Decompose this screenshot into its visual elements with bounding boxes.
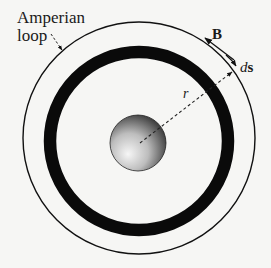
ds-label-s: s (248, 59, 254, 75)
ds-label: ds (240, 60, 253, 75)
ds-label-d: d (240, 59, 248, 75)
amperian-loop-diagram: Amperian loop B ds r (0, 0, 271, 268)
ds-element-arrow (226, 55, 236, 66)
loop-pointer-dashed-arrow (51, 34, 62, 50)
b-field-label: B (212, 27, 222, 42)
amperian-label-line1: Amperian (17, 9, 85, 26)
radius-label: r (183, 87, 188, 101)
amperian-label-line2: loop (17, 27, 47, 44)
central-sphere (110, 115, 166, 171)
